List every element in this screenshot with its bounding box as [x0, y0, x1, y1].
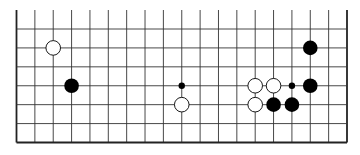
black-stone-icon[interactable] — [266, 97, 281, 112]
board-grid — [17, 10, 348, 143]
white-stone-icon[interactable] — [266, 78, 281, 93]
white-stone-icon[interactable] — [46, 41, 61, 56]
white-stone-icon[interactable] — [248, 97, 263, 112]
black-stone-icon[interactable] — [285, 97, 300, 112]
star-point-icon — [179, 83, 185, 89]
star-point-icon — [289, 83, 295, 89]
black-stone-icon[interactable] — [303, 78, 318, 93]
go-board[interactable] — [0, 0, 360, 155]
black-stone-icon[interactable] — [303, 41, 318, 56]
white-stone-icon[interactable] — [174, 97, 189, 112]
black-stone-icon[interactable] — [64, 78, 79, 93]
white-stone-icon[interactable] — [248, 78, 263, 93]
